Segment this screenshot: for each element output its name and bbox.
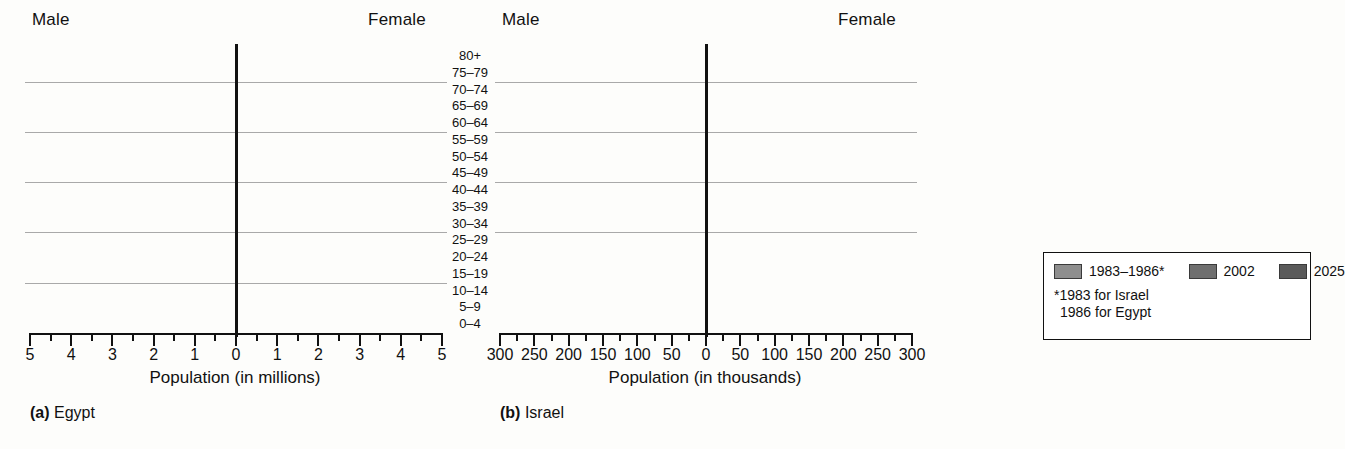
x-axis-minor-tick <box>654 333 656 341</box>
legend-swatch-2025 <box>1279 264 1307 279</box>
x-axis-israel <box>500 333 912 347</box>
legend-label-1983-1986: 1983–1986* <box>1089 263 1165 279</box>
legend-label-2002: 2002 <box>1224 263 1255 279</box>
legend-footnote: *1983 for Israel 1986 for Egypt <box>1054 287 1300 321</box>
x-axis-tick <box>705 333 707 346</box>
x-axis-minor-tick <box>379 333 381 341</box>
x-tick-label: 150 <box>796 346 823 364</box>
x-tick-label: 3 <box>355 346 364 364</box>
panel-egypt: Male Female 54321012345 Population (in m… <box>0 0 470 449</box>
age-group-label: 0–4 <box>442 316 498 333</box>
x-tick-label: 250 <box>864 346 891 364</box>
x-tick-label: 300 <box>899 346 926 364</box>
age-group-label: 50–54 <box>442 149 498 166</box>
x-axis-minor-tick <box>91 333 93 341</box>
legend-items-row: 1983–1986* 2002 2025 <box>1054 261 1300 281</box>
age-group-axis: 80+75–7970–7465–6960–6455–5950–5445–4940… <box>442 48 498 333</box>
x-axis-tick <box>808 333 810 346</box>
legend-footnote-line2: 1986 for Egypt <box>1054 304 1300 321</box>
age-group-label: 65–69 <box>442 98 498 115</box>
age-group-label: 15–19 <box>442 266 498 283</box>
age-group-label: 55–59 <box>442 132 498 149</box>
caption-name-israel: Israel <box>525 404 564 421</box>
x-axis-tick <box>111 333 113 346</box>
x-tick-label: 0 <box>702 346 711 364</box>
age-group-label: 35–39 <box>442 199 498 216</box>
x-tick-label: 1 <box>190 346 199 364</box>
x-axis-minor-tick <box>722 333 724 341</box>
x-axis-minor-tick <box>619 333 621 341</box>
legend-swatch-1983-1986 <box>1054 264 1082 279</box>
x-axis-tick <box>533 333 535 346</box>
age-group-label: 80+ <box>442 48 498 65</box>
x-tick-label: 1 <box>273 346 282 364</box>
x-tick-label: 0 <box>232 346 241 364</box>
x-axis-minor-tick <box>173 333 175 341</box>
x-axis-minor-tick <box>516 333 518 341</box>
x-axis-tick <box>235 333 237 346</box>
x-axis-minor-tick <box>688 333 690 341</box>
x-axis-minor-tick <box>860 333 862 341</box>
x-axis-minor-tick <box>757 333 759 341</box>
age-group-label: 75–79 <box>442 65 498 82</box>
x-axis-tick <box>877 333 879 346</box>
x-tick-label: 200 <box>555 346 582 364</box>
x-axis-minor-tick <box>132 333 134 341</box>
x-axis-tick <box>568 333 570 346</box>
x-tick-label: 5 <box>438 346 447 364</box>
x-tick-label: 50 <box>663 346 681 364</box>
legend-footnote-line1: *1983 for Israel <box>1054 287 1149 303</box>
male-label-egypt: Male <box>32 10 70 30</box>
legend-label-2025: 2025 <box>1314 263 1345 279</box>
male-label-israel: Male <box>502 10 540 30</box>
caption-letter-egypt: (a) <box>30 404 50 421</box>
x-tick-label: 2 <box>149 346 158 364</box>
x-axis-minor-tick <box>297 333 299 341</box>
caption-letter-israel: (b) <box>500 404 520 421</box>
x-axis-title-israel: Population (in thousands) <box>470 368 940 388</box>
plot-area-israel <box>500 48 912 333</box>
age-group-label: 60–64 <box>442 115 498 132</box>
x-axis-minor-tick <box>420 333 422 341</box>
age-group-label: 5–9 <box>442 299 498 316</box>
x-tick-label: 150 <box>590 346 617 364</box>
x-axis-tick <box>842 333 844 346</box>
x-axis-minor-tick <box>256 333 258 341</box>
x-tick-label: 5 <box>26 346 35 364</box>
x-axis-tick <box>911 333 913 346</box>
x-axis-tick <box>671 333 673 346</box>
x-axis-title-egypt: Population (in millions) <box>0 368 470 388</box>
x-axis-tick <box>602 333 604 346</box>
x-tick-label: 100 <box>624 346 651 364</box>
female-label-egypt: Female <box>368 10 426 30</box>
x-axis-minor-tick <box>894 333 896 341</box>
x-axis-tick <box>636 333 638 346</box>
x-axis-minor-tick <box>825 333 827 341</box>
x-axis-tick <box>739 333 741 346</box>
x-axis-tick <box>774 333 776 346</box>
x-tick-label: 300 <box>487 346 514 364</box>
x-axis-minor-tick <box>214 333 216 341</box>
x-axis-minor-tick <box>338 333 340 341</box>
x-axis-minor-tick <box>585 333 587 341</box>
x-tick-label: 250 <box>521 346 548 364</box>
x-axis-minor-tick <box>551 333 553 341</box>
x-tick-label: 50 <box>731 346 749 364</box>
x-tick-label: 2 <box>314 346 323 364</box>
panel-israel: Male Female 3002502001501005005010015020… <box>470 0 940 449</box>
x-axis-tick <box>194 333 196 346</box>
age-group-label: 30–34 <box>442 216 498 233</box>
age-group-label: 20–24 <box>442 249 498 266</box>
x-axis-egypt <box>30 333 442 347</box>
age-group-label: 10–14 <box>442 283 498 300</box>
x-axis-tick <box>29 333 31 346</box>
x-axis-minor-tick <box>791 333 793 341</box>
center-axis-israel <box>705 44 708 337</box>
x-axis-tick <box>441 333 443 346</box>
x-axis-minor-tick <box>50 333 52 341</box>
x-tick-label: 3 <box>108 346 117 364</box>
x-axis-tick <box>499 333 501 346</box>
caption-egypt: (a) Egypt <box>30 404 95 422</box>
x-tick-label: 4 <box>396 346 405 364</box>
